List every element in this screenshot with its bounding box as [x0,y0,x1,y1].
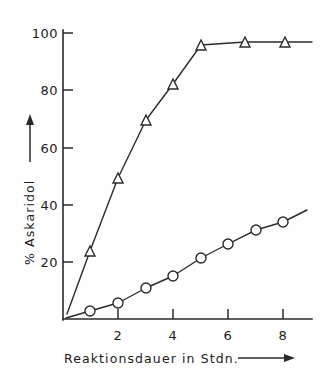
x-axis-arrow-icon [238,354,295,362]
circle-series-line [66,210,307,318]
triangle-series-markers [85,37,290,256]
y-tick-label-60: 60 [40,141,58,156]
y-axis-arrow-icon [26,114,34,162]
y-tick-label-80: 80 [40,83,58,98]
y-tick-label-100: 100 [32,26,58,41]
x-tick-label-2: 2 [114,328,123,343]
x-tick-label-8: 8 [279,328,288,343]
y-tick-label-20: 20 [40,255,58,270]
y-axis-ticks [63,33,73,262]
y-axis-title: % Askaridol [22,180,37,265]
y-tick-label-40: 40 [40,198,58,213]
x-axis-title: Reaktionsdauer in Stdn. [64,351,239,366]
chart-canvas: 100 80 60 40 20 2 4 6 8 % Askaridol Reak… [0,0,323,378]
triangle-series-line [67,42,312,314]
chart-figure: 100 80 60 40 20 2 4 6 8 % Askaridol Reak… [0,0,323,378]
x-axis-ticks [118,309,283,319]
x-tick-label-4: 4 [169,328,178,343]
x-tick-label-6: 6 [224,328,233,343]
